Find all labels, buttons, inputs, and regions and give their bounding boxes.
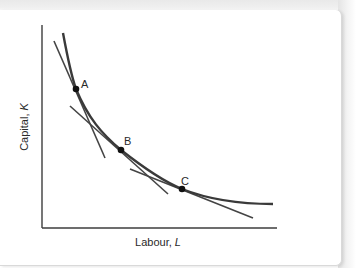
point-a-label: A: [81, 78, 89, 90]
x-axis-label: Labour, L: [135, 236, 181, 248]
point-c-label: C: [181, 175, 189, 187]
point-b-label: B: [124, 135, 131, 147]
point-a-marker: [73, 86, 80, 93]
isoquant-curve: [63, 33, 273, 204]
point-b-marker: [118, 147, 125, 154]
y-axis-label: Capital, K: [18, 102, 30, 150]
isoquant-diagram: A B C Labour, L Capital, K: [0, 0, 356, 268]
